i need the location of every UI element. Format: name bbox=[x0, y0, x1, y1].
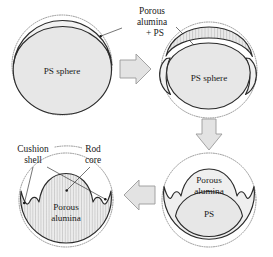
callout-cushion-shell-line1: Cushion bbox=[17, 144, 49, 154]
arrow-2-shape bbox=[196, 119, 222, 150]
callout-cushion-shell-line2: shell bbox=[24, 155, 42, 165]
arrow-3-left bbox=[124, 180, 155, 210]
arrow-1-shape bbox=[120, 54, 151, 84]
callout-porous-alumina-ps-line1: Porous bbox=[139, 6, 165, 16]
stage-1-group: PS sphere bbox=[12, 15, 112, 115]
arrow-2-down bbox=[196, 119, 222, 150]
callout-rod-core-anchor-dot bbox=[65, 189, 68, 192]
callout-rod-core-line2: core bbox=[85, 155, 101, 165]
callout-rod-core-line1: Rod bbox=[85, 144, 101, 154]
stage-4-label-line1: Porous bbox=[53, 202, 79, 212]
stage-3-alumina-label-line2: alumina bbox=[194, 186, 224, 196]
callout-connector-dotted bbox=[55, 146, 82, 148]
arrow-1-right bbox=[120, 54, 151, 84]
callout-porous-alumina-ps-line2: alumina bbox=[137, 17, 168, 27]
stage-3-group: Porous alumina PS bbox=[162, 153, 256, 247]
process-diagram: PS sphere Porous alumina + PS bbox=[0, 0, 273, 257]
stage-3-ps-label: PS bbox=[204, 209, 214, 219]
diagram-canvas: PS sphere Porous alumina + PS bbox=[0, 0, 273, 257]
stage-2-inner-label: PS sphere bbox=[191, 73, 228, 83]
stage-4-label-line2: alumina bbox=[51, 213, 81, 223]
callout-1-anchor-dot-stage1 bbox=[99, 35, 102, 38]
stage-1-inner-label: PS sphere bbox=[44, 66, 81, 76]
arrow-3-shape bbox=[124, 180, 155, 210]
callout-cushion-shell-anchor-dot-right bbox=[104, 198, 107, 201]
callout-porous-alumina-ps: Porous alumina + PS bbox=[137, 6, 168, 38]
stage-2-group: PS sphere bbox=[160, 22, 257, 118]
stage-3-alumina-label-line1: Porous bbox=[196, 175, 222, 185]
callout-cushion-shell-anchor-dot-left bbox=[23, 202, 26, 205]
callout-porous-alumina-ps-line3: + PS bbox=[146, 28, 164, 38]
